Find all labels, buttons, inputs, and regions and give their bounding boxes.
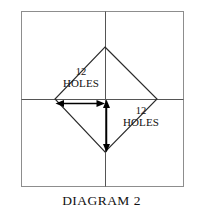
horizontal-dimension-label: 12 HOLES bbox=[58, 67, 104, 89]
horizontal-dimension-unit: HOLES bbox=[58, 78, 104, 89]
diagram-canvas bbox=[0, 0, 203, 213]
figure-caption: DIAGRAM 2 bbox=[0, 193, 203, 209]
horizontal-dimension-arrow bbox=[56, 100, 106, 107]
vertical-dimension-arrow bbox=[103, 100, 110, 153]
vertical-dimension-label: 12 HOLES bbox=[110, 106, 172, 128]
diagram-page: 12 HOLES 12 HOLES DIAGRAM 2 bbox=[0, 0, 203, 213]
vertical-dimension-unit: HOLES bbox=[110, 117, 172, 128]
horizontal-arrow-head-right bbox=[97, 100, 106, 107]
